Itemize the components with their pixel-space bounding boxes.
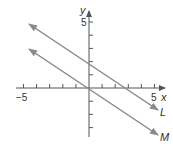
line-M (29, 49, 158, 135)
line-L-label: L (160, 106, 166, 118)
y-tick-label-5: 5 (81, 17, 87, 28)
coordinate-plane-figure: y 5 −5 5 x L M (0, 0, 173, 149)
chart-svg: y 5 −5 5 x L M (0, 0, 173, 149)
line-M-label: M (160, 131, 170, 143)
x-tick-label-neg5: −5 (16, 92, 28, 103)
y-axis-label: y (79, 4, 87, 16)
y-axis-ticks (89, 22, 93, 128)
x-tick-label-5: 5 (151, 92, 157, 103)
x-axis-label: x (160, 91, 167, 103)
line-L (29, 24, 158, 110)
